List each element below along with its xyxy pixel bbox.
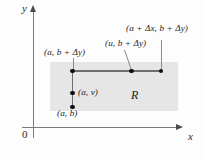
label-corner-top-right: (a + Δx, b + Δy)	[126, 23, 188, 33]
dot-point-u-top	[129, 69, 134, 74]
vertical-segment	[72, 71, 74, 107]
dot-corner-top-left	[70, 69, 75, 74]
label-corner-top-left: (a, b + Δy)	[44, 47, 85, 57]
region-label: R	[131, 88, 138, 103]
y-axis-arrow-icon	[30, 5, 36, 12]
leader-line-corner-top-right	[161, 40, 162, 71]
origin-label: 0	[22, 128, 28, 140]
y-axis-line	[33, 11, 34, 138]
label-corner-bottom-left: (a, b)	[57, 108, 78, 118]
horizontal-segment	[72, 70, 160, 72]
x-axis-label: x	[188, 130, 193, 142]
calculus-region-diagram: y x 0 (a, b + Δy) (u, b + Δy) (a + Δx, b…	[0, 0, 203, 159]
y-axis-label: y	[22, 2, 27, 14]
label-point-a-v: (a, v)	[78, 87, 98, 97]
x-axis-line	[22, 127, 178, 128]
label-point-u-top: (u, b + Δy)	[105, 38, 146, 48]
dot-point-a-v	[70, 91, 75, 96]
x-axis-arrow-icon	[176, 124, 183, 130]
